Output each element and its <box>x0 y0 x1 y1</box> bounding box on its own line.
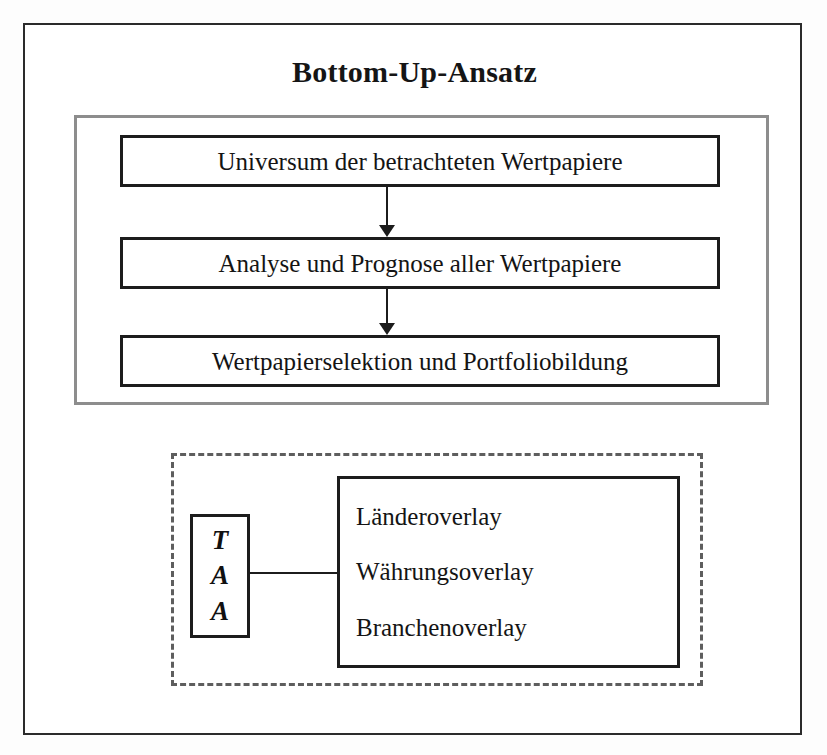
process-step-box-1: Universum der betrachteten Wertpapiere <box>120 135 720 187</box>
taa-to-overlays-connector <box>250 572 339 574</box>
outer-frame: Bottom-Up-Ansatz Universum der betrachte… <box>23 23 802 735</box>
arrow-down-icon-step2-step3 <box>379 289 395 335</box>
process-step-box-3: Wertpapierselektion und Portfoliobildung <box>120 335 720 387</box>
arrow-down-icon-step1-step2 <box>379 187 395 237</box>
process-step-label-3: Wertpapierselektion und Portfoliobildung <box>212 349 628 374</box>
page-title: Bottom-Up-Ansatz <box>25 57 804 87</box>
overlay-label-laender: Länderoverlay <box>356 504 677 529</box>
arrow-shaft <box>386 187 388 227</box>
overlay-label-waehrungs: Währungsoverlay <box>356 559 677 584</box>
taa-letter-2: A <box>211 562 229 589</box>
process-step-box-2: Analyse und Prognose aller Wertpapiere <box>120 237 720 289</box>
taa-letter-3: A <box>211 598 229 625</box>
arrow-head <box>379 225 395 237</box>
process-step-label-1: Universum der betrachteten Wertpapiere <box>218 149 623 174</box>
taa-box: T A A <box>190 514 250 638</box>
process-step-label-2: Analyse und Prognose aller Wertpapiere <box>219 251 622 276</box>
diagram-canvas: Bottom-Up-Ansatz Universum der betrachte… <box>0 0 827 755</box>
arrow-head <box>379 323 395 335</box>
overlay-label-branchen: Branchenoverlay <box>356 615 677 640</box>
overlay-list-box: Länderoverlay Währungsoverlay Branchenov… <box>337 476 680 668</box>
taa-letter-1: T <box>212 527 229 554</box>
arrow-shaft <box>386 289 388 325</box>
